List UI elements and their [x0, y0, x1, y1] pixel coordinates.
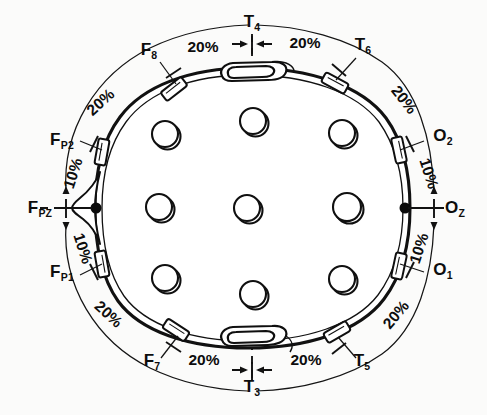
- percent-label-top-right-of-T4: 20%: [289, 34, 320, 51]
- label-base-F7: F: [144, 351, 155, 370]
- label-sub-T6: 6: [365, 44, 371, 56]
- label-base-FPZ: F: [28, 198, 39, 217]
- label-sub-F7: 7: [154, 360, 160, 372]
- label-sub-F8: 8: [151, 49, 157, 61]
- hole-front-left-ring: [152, 121, 178, 147]
- label-sub-OZ: Z: [458, 207, 465, 219]
- eeg-diagram-root: 20%20%20%20%10%10%10%10%20%20%20%20% F8T…: [0, 0, 487, 415]
- label-base-FP1: F: [50, 262, 61, 281]
- hole-rear-right-ring: [329, 266, 355, 292]
- clip-bottom-inner: [228, 331, 274, 343]
- hole-rear-left-ring: [152, 265, 178, 291]
- label-sub-O2: 2: [447, 135, 453, 147]
- label-base-T4: T: [244, 12, 255, 31]
- label-base-FP2: F: [50, 130, 61, 149]
- percent-label-bottom-right-of-T3: 20%: [290, 351, 321, 368]
- percent-label-top-left-of-T4: 20%: [187, 38, 218, 55]
- label-sub-FP1: P1: [61, 271, 74, 283]
- label-sub-FPZ: PZ: [38, 207, 52, 219]
- nasion-anchor-dot: [91, 203, 102, 214]
- label-sub-T3: 3: [254, 386, 260, 398]
- hole-rear-center-ring: [240, 281, 266, 307]
- hole-mid-left-ring: [146, 194, 172, 220]
- hole-center-ring: [234, 195, 260, 221]
- clip-top-inner: [228, 66, 274, 78]
- label-sub-O1: 1: [447, 269, 453, 281]
- label-base-T5: T: [354, 351, 365, 370]
- label-base-F8: F: [141, 40, 152, 59]
- label-sub-FP2: P2: [61, 139, 74, 151]
- eeg-electrode-placement-figure: 20%20%20%20%10%10%10%10%20%20%20%20% F8T…: [0, 0, 487, 415]
- label-sub-T5: 5: [364, 360, 370, 372]
- label-base-OZ: O: [445, 198, 458, 217]
- hole-front-right-ring: [329, 120, 355, 146]
- label-sub-T4: 4: [254, 21, 260, 33]
- hole-front-center-ring: [240, 108, 266, 134]
- label-base-T6: T: [355, 35, 366, 54]
- label-base-O1: O: [433, 260, 446, 279]
- percent-label-bottom-left-of-T3: 20%: [188, 351, 219, 368]
- hole-mid-right-ring: [333, 193, 361, 221]
- label-base-T3: T: [244, 377, 255, 396]
- label-base-O2: O: [433, 126, 446, 145]
